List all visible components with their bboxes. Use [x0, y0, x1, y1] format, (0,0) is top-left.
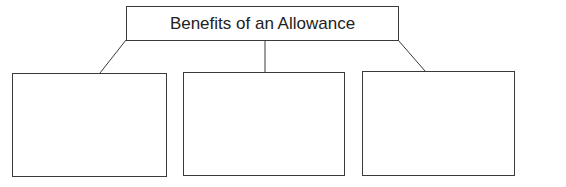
title-text: Benefits of an Allowance [170, 14, 355, 34]
child-box-right [362, 71, 515, 176]
connector-left [100, 40, 126, 73]
title-box: Benefits of an Allowance [126, 6, 399, 41]
connector-right [398, 40, 425, 71]
child-box-middle [183, 72, 345, 176]
child-box-left [12, 73, 167, 177]
